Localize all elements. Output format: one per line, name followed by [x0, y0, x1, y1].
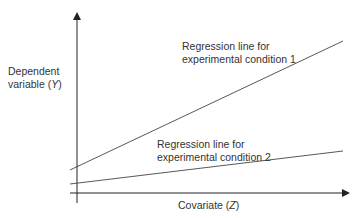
- condition-2-label-line1: Regression line for: [157, 138, 271, 151]
- y-axis-label-line1: Dependent: [8, 65, 62, 78]
- condition-2-label-line2: experimental condition 2: [157, 151, 271, 164]
- condition-1-label-line2: experimental condition 1: [182, 53, 296, 66]
- x-axis-label: Covariate (Z): [178, 199, 239, 212]
- y-axis-label: Dependent variable (Y): [8, 65, 62, 91]
- condition-2-label: Regression line for experimental conditi…: [157, 138, 271, 164]
- y-axis-label-line2: variable (Y): [8, 78, 62, 91]
- diagram-canvas: [0, 0, 360, 218]
- condition-1-label-line1: Regression line for: [182, 40, 296, 53]
- condition-1-label: Regression line for experimental conditi…: [182, 40, 296, 66]
